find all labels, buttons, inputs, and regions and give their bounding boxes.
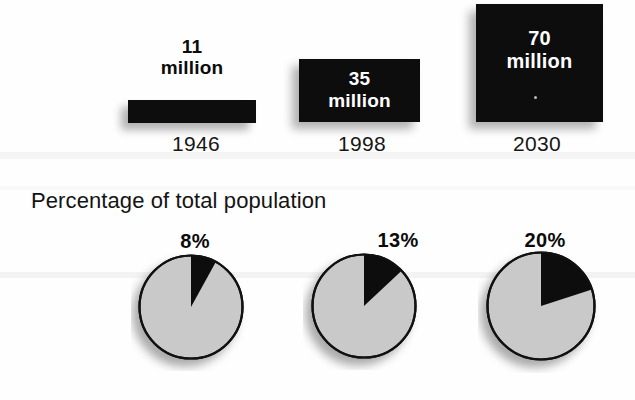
bar-block-1998: 35 million: [299, 59, 420, 122]
bar-value-number-2030: 70: [476, 27, 603, 50]
bar-value-unit-1946: million: [128, 57, 256, 78]
pie-section-title: Percentage of total population: [31, 188, 326, 214]
bar-value-label-1998: 35 million: [299, 68, 420, 111]
scan-speck: [534, 96, 537, 99]
bar-value-unit-1998: million: [299, 90, 420, 112]
bar-value-number-1998: 35: [299, 68, 420, 90]
bar-year-label-1998: 1998: [302, 132, 422, 156]
bar-block-2030: 70 million: [476, 4, 603, 122]
bar-value-label-2030: 70 million: [476, 27, 603, 73]
bar-value-unit-2030: million: [476, 50, 603, 73]
bar-block-1946: [128, 100, 256, 123]
pie-chart-2: [303, 245, 428, 370]
bar-value-label-1946: 11 million: [128, 36, 256, 79]
bar-year-label-2030: 2030: [477, 132, 597, 156]
pie-chart-3: [478, 243, 608, 373]
bar-year-label-1946: 1946: [136, 132, 256, 156]
infographic-canvas: 11 million 1946 35 million 1998 70 milli…: [0, 0, 635, 400]
pie-chart-1: [131, 246, 256, 371]
bar-value-number-1946: 11: [128, 36, 256, 57]
